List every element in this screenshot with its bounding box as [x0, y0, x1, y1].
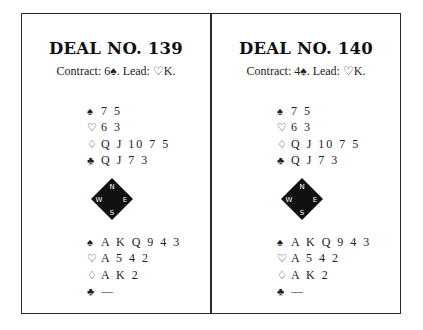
- cards: Q J 10 7 5: [291, 137, 360, 151]
- deal-title: DEAL NO. 140: [211, 39, 401, 58]
- spade-icon: ♠: [87, 103, 101, 119]
- cards: Q J 7 3: [291, 153, 339, 167]
- cards: Q J 7 3: [101, 153, 149, 167]
- north-hand: ♠7 5 ♡6 3 ♢Q J 10 7 5 ♣Q J 7 3: [87, 103, 170, 168]
- deal-panel-139: DEAL NO. 139 Contract: 6♠. Lead: ♡K. ♠7 …: [21, 13, 211, 314]
- club-icon: ♣: [87, 283, 101, 299]
- hand-line-spades: ♠7 5: [277, 103, 360, 119]
- north-hand: ♠7 5 ♡6 3 ♢Q J 10 7 5 ♣Q J 7 3: [277, 103, 360, 168]
- hand-line-clubs: ♣Q J 7 3: [277, 152, 360, 168]
- hand-line-hearts: ♡A 5 4 2: [277, 250, 371, 266]
- compass-west: W: [96, 196, 103, 204]
- club-icon: ♣: [87, 152, 101, 168]
- hand-line-diamonds: ♢Q J 10 7 5: [277, 136, 360, 152]
- hand-line-clubs: ♣Q J 7 3: [87, 152, 170, 168]
- cards: A K 2: [291, 268, 330, 282]
- club-icon: ♣: [277, 152, 291, 168]
- cards: 6 3: [291, 120, 312, 134]
- south-hand: ♠A K Q 9 4 3 ♡A 5 4 2 ♢A K 2 ♣—: [87, 234, 181, 299]
- cards: A K Q 9 4 3: [101, 235, 181, 249]
- hand-line-diamonds: ♢A K 2: [87, 267, 181, 283]
- heart-icon: ♡: [87, 250, 101, 266]
- diamond-icon: ♢: [277, 136, 291, 152]
- diamond-icon: ♢: [87, 136, 101, 152]
- compass-east: E: [313, 196, 317, 204]
- hand-line-diamonds: ♢Q J 10 7 5: [87, 136, 170, 152]
- cards: 7 5: [101, 104, 122, 118]
- diamond-icon: ♢: [87, 267, 101, 283]
- hand-line-hearts: ♡A 5 4 2: [87, 250, 181, 266]
- compass-north: N: [109, 183, 114, 191]
- cards: —: [101, 284, 115, 298]
- hand-line-clubs: ♣—: [277, 283, 371, 299]
- compass-east: E: [123, 196, 127, 204]
- club-icon: ♣: [277, 283, 291, 299]
- cards: Q J 10 7 5: [101, 137, 170, 151]
- contract-line: Contract: 6♠. Lead: ♡K.: [21, 64, 211, 79]
- deal-title: DEAL NO. 139: [21, 39, 211, 58]
- compass-north: N: [299, 183, 304, 191]
- cards: A 5 4 2: [101, 251, 150, 265]
- compass-south: S: [110, 209, 115, 217]
- hand-line-spades: ♠7 5: [87, 103, 170, 119]
- south-hand: ♠A K Q 9 4 3 ♡A 5 4 2 ♢A K 2 ♣—: [277, 234, 371, 299]
- compass-south: S: [300, 209, 305, 217]
- hand-line-spades: ♠A K Q 9 4 3: [277, 234, 371, 250]
- spade-icon: ♠: [277, 234, 291, 250]
- cards: A K 2: [101, 268, 140, 282]
- hand-line-hearts: ♡6 3: [277, 119, 360, 135]
- heart-icon: ♡: [277, 119, 291, 135]
- heart-icon: ♡: [87, 119, 101, 135]
- cards: A 5 4 2: [291, 251, 340, 265]
- cards: A K Q 9 4 3: [291, 235, 371, 249]
- deal-panel-140: DEAL NO. 140 Contract: 4♠. Lead: ♡K. ♠7 …: [211, 13, 401, 314]
- compass-west: W: [286, 196, 293, 204]
- cards: 6 3: [101, 120, 122, 134]
- heart-icon: ♡: [277, 250, 291, 266]
- hand-line-spades: ♠A K Q 9 4 3: [87, 234, 181, 250]
- cards: —: [291, 284, 305, 298]
- hand-line-clubs: ♣—: [87, 283, 181, 299]
- spade-icon: ♠: [87, 234, 101, 250]
- cards: 7 5: [291, 104, 312, 118]
- hand-line-diamonds: ♢A K 2: [277, 267, 371, 283]
- compass-diamond-icon: N E S W: [281, 178, 323, 220]
- diamond-icon: ♢: [277, 267, 291, 283]
- hand-line-hearts: ♡6 3: [87, 119, 170, 135]
- spade-icon: ♠: [277, 103, 291, 119]
- compass-diamond-icon: N E S W: [91, 178, 133, 220]
- contract-line: Contract: 4♠. Lead: ♡K.: [211, 64, 401, 79]
